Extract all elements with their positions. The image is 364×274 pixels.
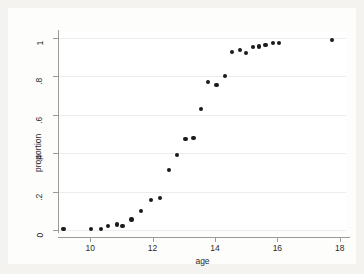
y-axis-line	[58, 30, 59, 233]
y-axis-tick	[53, 192, 58, 193]
y-axis-tick	[53, 76, 58, 77]
y-axis-tick-label-text: .8	[36, 78, 45, 85]
scatter-point	[263, 43, 267, 47]
y-axis-title: proportion	[22, 96, 36, 176]
x-axis-tick-label: 18	[328, 244, 352, 253]
y-axis-tick-label-text: 1	[36, 41, 45, 46]
x-axis-tick-label: 14	[203, 244, 227, 253]
scatter-point	[120, 224, 124, 228]
gridline-horizontal	[59, 76, 346, 77]
y-axis-title-text: proportion	[34, 134, 43, 172]
gridline-horizontal	[59, 38, 346, 39]
gridline-horizontal	[59, 115, 346, 116]
y-axis-tick-label: .2	[28, 186, 52, 204]
plot-area	[59, 32, 346, 230]
y-axis-tick-label: .8	[28, 70, 52, 88]
x-axis-tick-label: 10	[78, 244, 102, 253]
x-axis-tick-label: 16	[265, 244, 289, 253]
y-axis-tick	[53, 38, 58, 39]
x-axis-tick-label: 12	[141, 244, 165, 253]
x-axis-tick	[90, 238, 91, 242]
scatter-point	[115, 222, 119, 226]
scatter-point	[183, 137, 187, 141]
y-axis-tick-label: 0	[28, 224, 52, 242]
x-axis-title: age	[59, 257, 346, 266]
y-axis-tick	[53, 115, 58, 116]
scatter-point	[330, 38, 334, 42]
x-axis-line	[58, 237, 350, 238]
x-axis-tick	[340, 238, 341, 242]
scatter-point	[129, 217, 133, 221]
x-axis-tick	[277, 238, 278, 242]
y-axis-tick-label: 1	[28, 32, 52, 50]
x-axis-tick	[153, 238, 154, 242]
y-axis-tick-label-text: 0	[36, 233, 45, 238]
y-axis-tick	[53, 230, 58, 231]
gridline-horizontal	[59, 153, 346, 154]
gridline-horizontal	[59, 192, 346, 193]
scatter-point	[61, 227, 65, 231]
graph-region: 0.2.4.6.81 1012141618 proportion age	[8, 8, 356, 264]
scatter-point	[191, 136, 195, 140]
scatter-point	[214, 83, 218, 87]
y-axis-tick-label-text: .6	[36, 116, 45, 123]
x-axis-tick	[215, 238, 216, 242]
chart-screenshot: 0.2.4.6.81 1012141618 proportion age	[0, 0, 364, 274]
y-axis-tick-label-text: .2	[36, 193, 45, 200]
y-axis-tick	[53, 153, 58, 154]
